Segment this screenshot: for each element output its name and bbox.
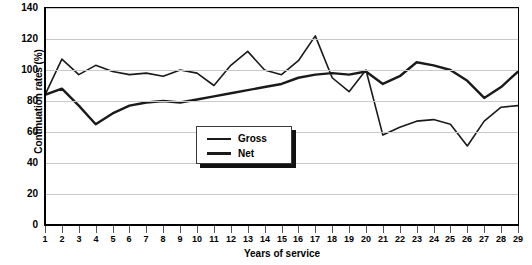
x-tick-23 xyxy=(417,226,418,233)
chart-legend: Gross Net xyxy=(196,126,292,164)
x-tick-26 xyxy=(467,226,468,233)
y-tick-label-20: 20 xyxy=(12,189,38,199)
x-tick-3 xyxy=(79,226,80,233)
x-tick-27 xyxy=(484,226,485,233)
y-axis-tick-labels: 140120100806040200 xyxy=(8,0,38,265)
series-lines xyxy=(45,8,518,225)
gridline-80 xyxy=(45,101,518,102)
gridline-120 xyxy=(45,39,518,40)
x-tick-1 xyxy=(45,226,46,233)
x-tick-28 xyxy=(501,226,502,233)
y-tick-label-120: 120 xyxy=(12,34,38,44)
x-tick-6 xyxy=(129,226,130,233)
legend-item-gross: Gross xyxy=(197,131,291,146)
legend-item-net: Net xyxy=(197,146,291,161)
x-tick-17 xyxy=(315,226,316,233)
x-tick-18 xyxy=(332,226,333,233)
y-tick-label-80: 80 xyxy=(12,96,38,106)
legend-label-gross: Gross xyxy=(238,133,267,144)
legend-swatch-gross xyxy=(207,138,231,140)
x-tick-29 xyxy=(518,226,519,233)
x-tick-20 xyxy=(366,226,367,233)
line-chart: Continuation rates (%) 14012010080604020… xyxy=(0,0,532,265)
y-tick-label-40: 40 xyxy=(12,158,38,168)
legend-label-net: Net xyxy=(238,148,254,159)
x-tick-16 xyxy=(298,226,299,233)
x-tick-8 xyxy=(163,226,164,233)
x-tick-21 xyxy=(383,226,384,233)
gridline-100 xyxy=(45,70,518,71)
x-tick-11 xyxy=(214,226,215,233)
x-tick-22 xyxy=(400,226,401,233)
x-tick-7 xyxy=(146,226,147,233)
x-tick-10 xyxy=(197,226,198,233)
x-tick-2 xyxy=(62,226,63,233)
x-tick-5 xyxy=(113,226,114,233)
x-tick-15 xyxy=(282,226,283,233)
legend-swatch-net xyxy=(207,152,231,155)
y-tick-label-100: 100 xyxy=(12,65,38,75)
y-tick-label-140: 140 xyxy=(12,3,38,13)
gridline-20 xyxy=(45,194,518,195)
y-tick-label-60: 60 xyxy=(12,127,38,137)
x-tick-12 xyxy=(231,226,232,233)
x-axis-tick-labels: 1234567891011121314151617181920212223242… xyxy=(45,234,519,248)
x-tick-19 xyxy=(349,226,350,233)
x-axis-title: Years of service xyxy=(45,248,519,259)
gridline-140 xyxy=(45,8,518,9)
x-tick-14 xyxy=(265,226,266,233)
y-tick-label-0: 0 xyxy=(12,220,38,230)
x-tick-24 xyxy=(434,226,435,233)
x-tick-13 xyxy=(248,226,249,233)
x-tick-9 xyxy=(180,226,181,233)
plot-area xyxy=(45,8,518,225)
x-tick-label-29: 29 xyxy=(508,234,528,245)
x-tick-4 xyxy=(96,226,97,233)
x-tick-25 xyxy=(450,226,451,233)
